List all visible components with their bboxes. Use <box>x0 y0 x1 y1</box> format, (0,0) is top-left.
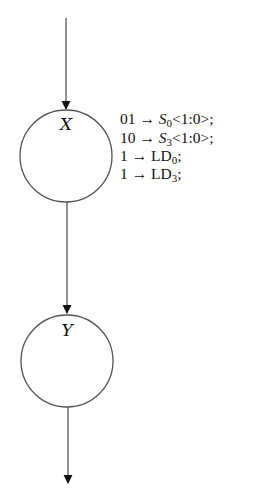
action-line: 1 → LD0; <box>120 147 181 166</box>
action-line: 1 → LD3; <box>120 165 181 184</box>
state-x: X <box>20 110 112 202</box>
asm-diagram: X Y 01 → S0<1:0>; 10 → S3<1:0>; 1 → LD0;… <box>0 0 266 496</box>
state-x-label: X <box>58 114 73 134</box>
state-y: Y <box>21 315 113 407</box>
state-y-label: Y <box>61 320 74 340</box>
action-line: 10 → S3<1:0>; <box>120 129 214 148</box>
action-line: 01 → S0<1:0>; <box>120 110 214 129</box>
state-x-actions: 01 → S0<1:0>; 10 → S3<1:0>; 1 → LD0; 1 →… <box>120 110 214 184</box>
